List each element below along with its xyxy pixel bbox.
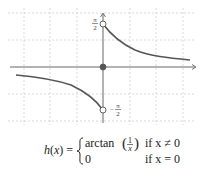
label-pi-over-2: π 2 — [92, 16, 98, 32]
label-num: π — [116, 102, 120, 110]
label-den: 2 — [93, 24, 97, 32]
paren-open: ( — [122, 135, 127, 152]
case1-condition: if x ≠ 0 — [145, 136, 180, 150]
label-neg-pi-over-2: − π 2 — [110, 102, 121, 118]
case2-expression: 0 — [85, 152, 91, 166]
piecewise-formula: h(x) = arctan ( 1 x ) if x ≠ 0 0 if x = … — [0, 131, 203, 173]
label-minus: − — [110, 106, 114, 114]
case2-condition: if x = 0 — [145, 152, 180, 166]
fraction-denominator: x — [127, 144, 132, 153]
left-branch-curve — [16, 75, 103, 110]
filled-point-origin — [100, 64, 106, 70]
paren-close: ) — [134, 135, 139, 152]
formula-lhs: h(x) = — [44, 143, 73, 157]
right-branch-curve — [103, 24, 190, 60]
label-den: 2 — [116, 110, 120, 118]
case1-expression: arctan — [85, 136, 114, 150]
function-graph: π 2 − π 2 — [0, 0, 203, 130]
open-point-top — [100, 21, 106, 27]
open-point-bottom — [100, 107, 106, 113]
label-num: π — [93, 16, 97, 24]
left-brace — [77, 138, 83, 164]
